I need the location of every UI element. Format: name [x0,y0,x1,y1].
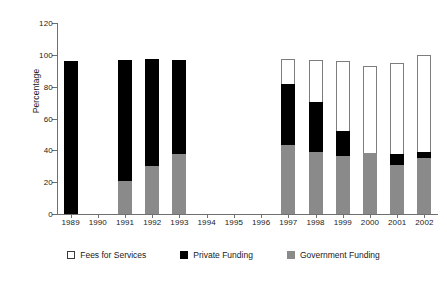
legend-item-private[interactable]: Private Funding [180,250,253,260]
x-tick-label-1999: 1999 [328,218,358,227]
bar-1999[interactable] [336,61,350,214]
bar-segment-government-funding-1993 [172,154,186,214]
x-tick-label-1991: 1991 [110,218,140,227]
bar-segment-fees-for-services-1997 [281,59,295,84]
bar-1993[interactable] [172,60,186,214]
bar-segment-private-funding-1999 [336,131,350,156]
x-tick-label-1998: 1998 [301,218,331,227]
bar-segment-private-funding-2001 [390,154,404,164]
white-square-icon [67,251,75,259]
x-tick-label-1997: 1997 [273,218,303,227]
bars-area [57,23,438,214]
bar-segment-government-funding-1998 [309,152,323,214]
x-tick-label-1990: 1990 [83,218,113,227]
stacked-bar-chart: Percentage 020406080100120 1989199019911… [0,0,447,284]
bar-segment-fees-for-services-2001 [390,63,404,155]
bar-2001[interactable] [390,63,404,214]
legend-label-government: Government Funding [300,250,380,260]
bar-segment-fees-for-services-2002 [417,55,431,152]
chart-legend: Fees for Services Private Funding Govern… [0,250,447,260]
y-tick-label-120: 120 [39,19,53,28]
y-tick-label-60: 60 [44,114,53,123]
bar-segment-government-funding-1999 [336,156,350,214]
x-axis-line [57,214,438,215]
x-tick-label-2000: 2000 [355,218,385,227]
black-square-icon [180,251,188,259]
bar-segment-government-funding-2001 [390,165,404,214]
bar-1992[interactable] [145,59,159,214]
legend-label-private: Private Funding [193,250,253,260]
bar-segment-fees-for-services-2000 [363,66,377,153]
bar-1998[interactable] [309,60,323,214]
x-tick-label-2001: 2001 [382,218,412,227]
bar-segment-government-funding-1992 [145,166,159,214]
y-tick-label-80: 80 [44,82,53,91]
bar-2002[interactable] [417,55,431,214]
gray-square-icon [287,251,295,259]
bar-segment-fees-for-services-1998 [309,60,323,102]
bar-1989[interactable] [64,61,78,214]
legend-label-fees: Fees for Services [80,250,146,260]
x-tick-label-1989: 1989 [56,218,86,227]
bar-segment-government-funding-1991 [118,181,132,214]
y-tick-label-100: 100 [39,50,53,59]
y-tick-label-0: 0 [48,210,53,219]
x-tick-label-1995: 1995 [219,218,249,227]
bar-segment-private-funding-1993 [172,60,186,155]
y-tick-label-20: 20 [44,178,53,187]
bar-2000[interactable] [363,66,377,214]
bar-segment-private-funding-1991 [118,60,132,180]
bar-segment-fees-for-services-1999 [336,61,350,131]
x-tick-label-1993: 1993 [164,218,194,227]
bar-segment-private-funding-1997 [281,84,295,145]
bar-1997[interactable] [281,59,295,214]
legend-item-government[interactable]: Government Funding [287,250,380,260]
legend-item-fees[interactable]: Fees for Services [67,250,146,260]
x-tick-label-1996: 1996 [246,218,276,227]
bar-segment-private-funding-1998 [309,102,323,152]
bar-segment-private-funding-1989 [64,61,78,214]
bar-segment-government-funding-2000 [363,153,377,214]
x-tick-label-2002: 2002 [409,218,439,227]
bar-segment-government-funding-2002 [417,158,431,215]
bar-1991[interactable] [118,60,132,214]
bar-segment-government-funding-1997 [281,145,295,214]
x-tick-label-1992: 1992 [137,218,167,227]
y-axis-title: Percentage [31,51,41,131]
x-tick-label-1994: 1994 [192,218,222,227]
bar-segment-private-funding-1992 [145,59,159,166]
y-tick-label-40: 40 [44,146,53,155]
